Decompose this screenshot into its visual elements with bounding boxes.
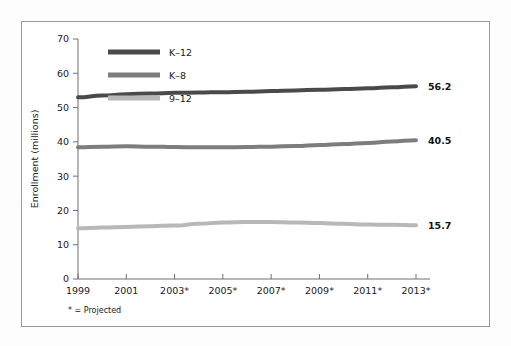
y-tick-label-10: 10 [57,239,69,250]
series-line-9-12 [78,222,416,228]
y-tick-label-30: 30 [57,171,69,182]
legend-label-K-8: K–8 [169,70,186,81]
x-tick-label-2005: 2005* [208,285,237,296]
series-end-label-K-8: 40.5 [428,135,451,146]
chart-frame: 010203040506070199920012003*2005*2007*20… [21,21,490,327]
x-tick-label-1999: 1999 [66,285,90,296]
y-tick-label-40: 40 [57,136,69,147]
x-tick-label-2003: 2003* [160,285,189,296]
x-tick-label-2011: 2011* [353,285,382,296]
series-line-K-8 [78,140,416,147]
y-tick-label-20: 20 [57,205,69,216]
footnote-projected: * = Projected [68,306,121,315]
chart-figure: 010203040506070199920012003*2005*2007*20… [0,0,511,346]
x-tick-label-2009: 2009* [305,285,334,296]
x-tick-label-2001: 2001 [114,285,138,296]
x-tick-label-2007: 2007* [257,285,286,296]
y-tick-label-50: 50 [57,102,69,113]
legend-label-K-12: K–12 [169,47,192,58]
series-end-label-9-12: 15.7 [428,220,451,231]
y-tick-label-70: 70 [57,33,69,44]
x-tick-label-2013: 2013* [402,285,431,296]
series-end-label-K-12: 56.2 [428,81,451,92]
legend-label-9-12: 9–12 [169,93,192,104]
y-tick-label-0: 0 [63,273,69,284]
y-tick-label-60: 60 [57,68,69,79]
line-chart-plot: 010203040506070199920012003*2005*2007*20… [22,22,489,326]
y-axis-title: Enrollment (millions) [29,110,40,209]
